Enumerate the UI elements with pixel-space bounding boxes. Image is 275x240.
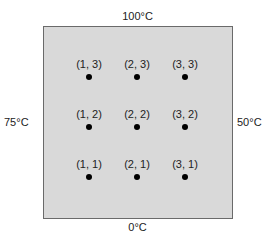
node-point-icon xyxy=(134,174,140,180)
grid-node: (3, 3) xyxy=(165,58,205,80)
node-point-icon xyxy=(86,124,92,130)
node-point-icon xyxy=(86,74,92,80)
node-label: (2, 3) xyxy=(117,58,157,70)
right-boundary-temp: 50°C xyxy=(237,116,262,128)
node-point-icon xyxy=(182,124,188,130)
node-label: (3, 1) xyxy=(165,158,205,170)
node-label: (1, 1) xyxy=(69,158,109,170)
left-boundary-temp: 75°C xyxy=(4,116,29,128)
node-point-icon xyxy=(86,174,92,180)
top-boundary-temp: 100°C xyxy=(0,10,275,22)
node-label: (1, 2) xyxy=(69,108,109,120)
node-point-icon xyxy=(134,74,140,80)
node-label: (3, 3) xyxy=(165,58,205,70)
grid-node: (3, 1) xyxy=(165,158,205,180)
node-point-icon xyxy=(182,174,188,180)
node-label: (2, 1) xyxy=(117,158,157,170)
node-point-icon xyxy=(134,124,140,130)
node-label: (3, 2) xyxy=(165,108,205,120)
grid-node: (2, 3) xyxy=(117,58,157,80)
grid-node: (2, 1) xyxy=(117,158,157,180)
grid-node: (2, 2) xyxy=(117,108,157,130)
grid-node: (1, 1) xyxy=(69,158,109,180)
node-label: (1, 3) xyxy=(69,58,109,70)
grid-node: (3, 2) xyxy=(165,108,205,130)
bottom-boundary-temp: 0°C xyxy=(0,221,275,233)
grid-node: (1, 2) xyxy=(69,108,109,130)
grid-node: (1, 3) xyxy=(69,58,109,80)
node-point-icon xyxy=(182,74,188,80)
node-label: (2, 2) xyxy=(117,108,157,120)
